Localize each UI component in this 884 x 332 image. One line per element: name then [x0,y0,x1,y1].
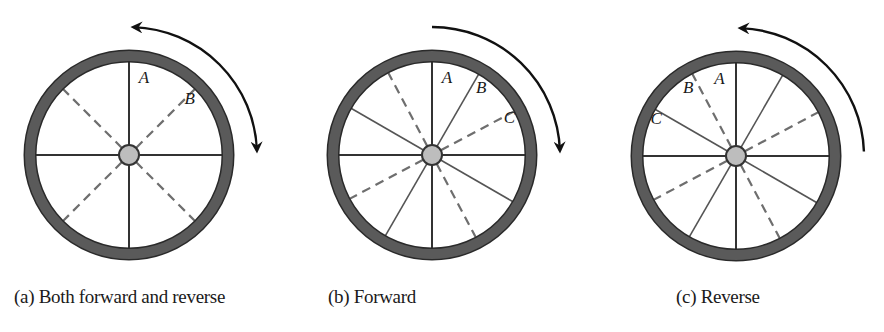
solid-spoke [741,75,783,148]
dashed-spoke [741,165,780,239]
solid-spoke [351,108,424,150]
spoke-label-c: C [651,109,663,128]
dashed-spoke [349,160,423,199]
wheel-panel-b: ABC [333,27,560,254]
spoke-label-b: B [683,78,694,97]
hub [422,145,442,165]
dashed-spoke [136,162,195,221]
solid-spoke [385,164,427,237]
wheel-panel-a: AB [30,27,257,254]
solid-spoke [441,160,514,202]
dashed-spoke [653,161,727,200]
dashed-spoke [388,72,427,146]
dashed-spoke [692,73,731,147]
spoke-label-a: A [138,68,150,87]
caption-a: (a) Both forward and reverse [14,286,225,308]
rotation-arrow-icon [432,27,560,151]
hub [119,145,139,165]
solid-spoke [655,109,728,151]
dashed-spoke [63,162,122,221]
spoke-label-c: C [504,108,516,127]
spoke-label-b: B [476,78,487,97]
hub [726,146,746,166]
spoke-label-b: B [185,89,196,108]
dashed-spoke [63,89,122,148]
solid-spoke [745,161,818,203]
dashed-spoke [745,112,819,151]
solid-spoke [689,165,731,238]
caption-b: (b) Forward [328,286,416,308]
caption-c: (c) Reverse [676,286,760,308]
wheel-rotation-figure: AB ABC ABC [0,0,884,332]
spoke-label-a: A [441,68,453,87]
wheel-panel-c: ABC [637,28,864,255]
spoke-label-a: A [713,69,725,88]
dashed-spoke [437,164,476,238]
